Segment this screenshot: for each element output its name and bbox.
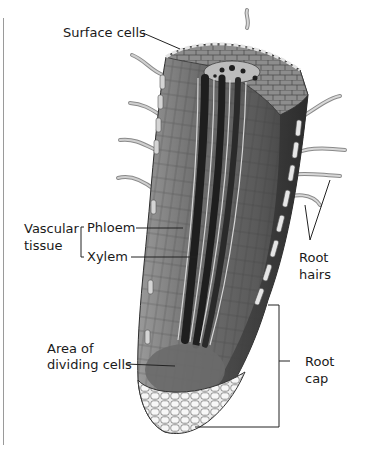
label-surface-cells: Surface cells bbox=[63, 25, 146, 40]
label-root-cap-1: Root bbox=[305, 354, 334, 369]
label-vascular: Vascular bbox=[24, 221, 79, 236]
label-root-cap-2: cap bbox=[305, 371, 328, 386]
root-diagram: Surface cells Vascular tissue Phloem Xyl… bbox=[0, 0, 367, 450]
label-tissue: tissue bbox=[24, 238, 63, 253]
label-area-of: Area of bbox=[47, 341, 94, 356]
label-root-hairs-1: Root bbox=[299, 250, 328, 265]
label-root-hairs-2: hairs bbox=[299, 267, 331, 282]
label-xylem: Xylem bbox=[87, 249, 128, 264]
label-dividing-cells: dividing cells bbox=[47, 357, 132, 372]
label-phloem: Phloem bbox=[87, 220, 135, 235]
